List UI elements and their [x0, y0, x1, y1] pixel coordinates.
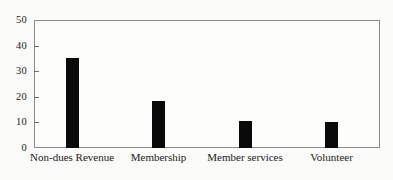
x-axis-tick-label: Non-dues Revenue	[30, 150, 114, 165]
bar	[325, 122, 338, 148]
bar-series	[34, 20, 380, 148]
bar	[239, 121, 252, 148]
bar	[66, 58, 79, 148]
y-axis: 01020304050	[0, 20, 31, 148]
y-axis-tick-label: 40	[16, 40, 27, 51]
x-axis-tick-label: Membership	[131, 150, 187, 165]
x-axis-tick-label: Member services	[207, 150, 282, 165]
y-axis-tick-label: 30	[16, 66, 27, 77]
y-axis-tick-label: 10	[16, 117, 27, 128]
bar	[152, 101, 165, 148]
x-axis: Non-dues RevenueMembershipMember service…	[0, 150, 393, 170]
y-axis-tick-label: 20	[16, 92, 27, 103]
x-axis-tick-label: Volunteer	[310, 150, 353, 165]
y-axis-tick-label: 50	[16, 15, 27, 26]
chart-figure: 01020304050 Non-dues RevenueMembershipMe…	[0, 0, 393, 180]
